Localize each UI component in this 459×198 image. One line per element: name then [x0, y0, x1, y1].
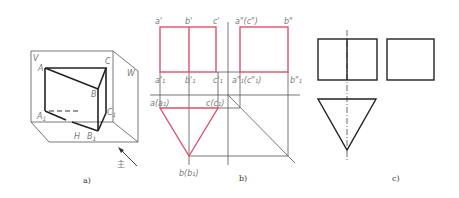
label-b-double-prime: b"	[284, 17, 293, 26]
label-a-prime: a'	[155, 17, 162, 26]
label-A1: A1	[36, 112, 46, 122]
panel-c-three-view: c)	[318, 30, 434, 183]
three-view-projection-figure: V H W A B C A1 B1 C1 主 a) a'	[0, 0, 459, 198]
v-plane-outline	[31, 51, 138, 142]
label-b1-double-prime: b"₁	[290, 76, 302, 85]
edge-a1-b1-part2	[72, 122, 98, 131]
label-c-prime: c'	[213, 17, 220, 26]
label-b1-prime: b'₁	[185, 76, 195, 85]
label-b-prime: b'	[185, 17, 192, 26]
label-h: H	[74, 132, 80, 141]
panel-b-projections: a' b' c' a"(c") b" a'₁ b'₁ c'₁ a"₁(c"₁) …	[150, 17, 302, 183]
label-v: V	[33, 54, 39, 63]
caption-b: b)	[239, 174, 247, 183]
panel-a-isometric: V H W A B C A1 B1 C1 主 a)	[31, 51, 138, 185]
edge-a1-b1-part1	[45, 111, 66, 120]
label-C: C	[105, 57, 111, 66]
label-B: B	[91, 90, 97, 99]
label-c-c1: c(c₁)	[206, 99, 224, 108]
label-C1: C1	[107, 108, 116, 118]
label-b-b1: b(b₁)	[179, 169, 199, 178]
45-degree-miter-line	[228, 95, 295, 163]
label-a-a1: a(a₁)	[150, 99, 169, 108]
label-main-view: 主	[117, 159, 125, 169]
label-a1-double-prime: a"₁(c"₁)	[232, 76, 261, 85]
label-a1-prime: a'₁	[155, 76, 165, 85]
side-view-rect	[387, 39, 434, 80]
label-w: W	[127, 69, 136, 78]
caption-a: a)	[83, 176, 91, 185]
label-a-double-prime: a"(c")	[235, 17, 258, 26]
label-B1: B1	[87, 132, 96, 142]
label-c1-prime: c'₁	[213, 76, 223, 85]
caption-c: c)	[392, 174, 400, 183]
front-view-rect	[160, 27, 216, 72]
h-plane-outline	[31, 122, 138, 142]
side-view-rect	[240, 27, 288, 72]
w-plane-bottom-edge	[113, 122, 138, 142]
top-face-abc	[45, 68, 106, 89]
label-A: A	[37, 64, 43, 73]
